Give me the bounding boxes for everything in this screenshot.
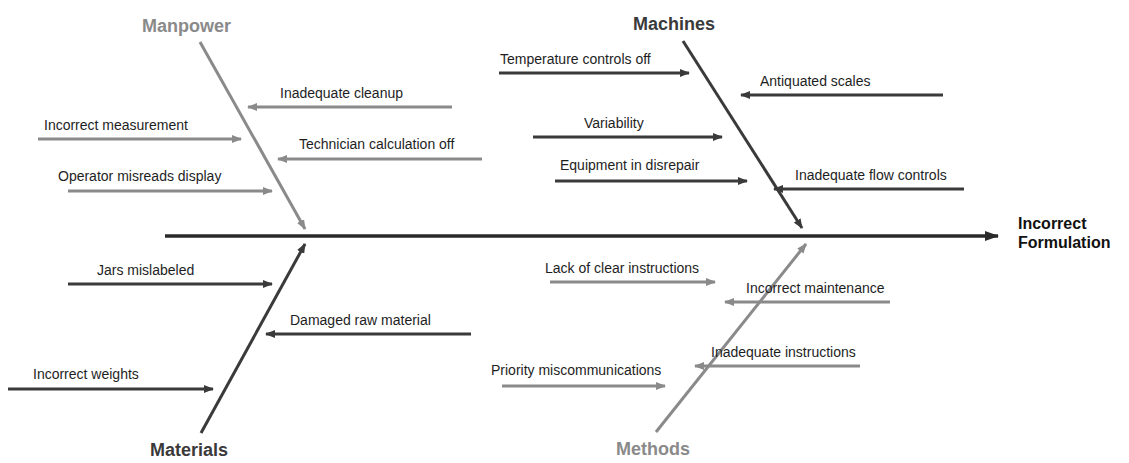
effect-line-2: Formulation xyxy=(1018,233,1110,252)
cause-label: Priority miscommunications xyxy=(491,362,661,378)
cause-label: Lack of clear instructions xyxy=(545,260,699,276)
category-machines: Machines xyxy=(633,14,715,34)
fishbone-diagram xyxy=(0,0,1129,463)
category-methods: Methods xyxy=(616,439,690,459)
cause-label: Inadequate instructions xyxy=(711,344,856,360)
category-materials: Materials xyxy=(150,440,228,460)
cause-label: Equipment in disrepair xyxy=(560,157,699,173)
effect-line-1: Incorrect xyxy=(1018,214,1110,233)
cause-label: Temperature controls off xyxy=(500,51,651,67)
effect-label: Incorrect Formulation xyxy=(1018,214,1110,252)
cause-label: Variability xyxy=(584,115,644,131)
cause-label: Technician calculation off xyxy=(299,136,454,152)
cause-label: Damaged raw material xyxy=(290,312,431,328)
cause-label: Incorrect weights xyxy=(33,366,139,382)
machines-bone xyxy=(683,41,802,228)
category-manpower: Manpower xyxy=(142,16,231,36)
cause-label: Jars mislabeled xyxy=(97,262,194,278)
cause-label: Inadequate cleanup xyxy=(280,85,403,101)
cause-label: Incorrect measurement xyxy=(44,117,188,133)
cause-label: Operator misreads display xyxy=(58,168,221,184)
materials-bone xyxy=(201,244,305,433)
cause-label: Inadequate flow controls xyxy=(795,167,947,183)
manpower-bone xyxy=(200,42,305,229)
cause-label: Antiquated scales xyxy=(760,73,871,89)
cause-label: Incorrect maintenance xyxy=(746,280,885,296)
